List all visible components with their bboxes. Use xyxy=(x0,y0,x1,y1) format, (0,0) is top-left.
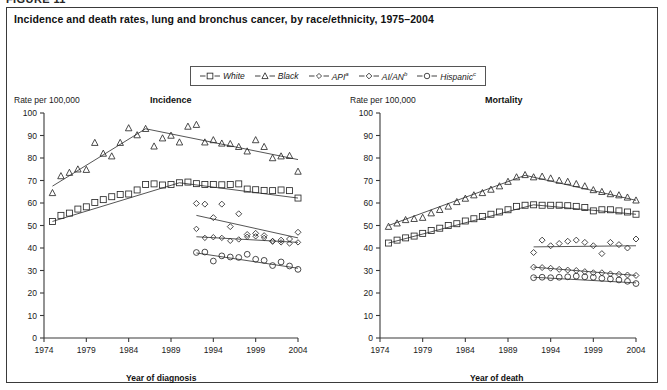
incidence-plot-area: 0102030405060708090100197419791984198919… xyxy=(8,95,338,360)
y-tick-label: 0 xyxy=(32,333,37,343)
data-point xyxy=(573,237,579,243)
data-point xyxy=(599,188,605,194)
data-point xyxy=(92,139,98,145)
legend-label: AI/ANb xyxy=(382,71,408,82)
x-tick-label: 1989 xyxy=(499,345,518,355)
data-point xyxy=(556,241,562,247)
data-point xyxy=(278,259,284,265)
y-tick-label: 30 xyxy=(364,266,374,276)
data-point xyxy=(556,274,562,280)
data-point xyxy=(66,210,72,216)
series-ai-an xyxy=(531,236,639,257)
data-point xyxy=(193,200,199,206)
legend-footnote-marker: c xyxy=(473,71,476,77)
legend-item-white[interactable]: White xyxy=(200,70,245,82)
legend-label: APIa xyxy=(332,71,349,82)
data-point xyxy=(590,187,596,193)
y-tick-label: 40 xyxy=(28,243,38,253)
data-point xyxy=(202,235,207,240)
trend-line xyxy=(52,129,298,186)
x-tick-label: 1979 xyxy=(77,345,96,355)
data-point xyxy=(227,182,233,188)
trend-line xyxy=(389,175,636,225)
data-point xyxy=(159,135,165,141)
data-point xyxy=(126,191,132,197)
legend-label: White xyxy=(223,71,245,81)
data-point xyxy=(193,181,199,187)
legend-label: Black xyxy=(278,71,299,81)
data-point xyxy=(219,253,225,259)
data-point xyxy=(582,239,588,245)
data-point xyxy=(252,137,258,143)
data-point xyxy=(227,254,233,260)
data-point xyxy=(168,132,174,138)
x-tick-label: 1999 xyxy=(246,345,265,355)
legend-item-ai-an[interactable]: AI/ANb xyxy=(359,70,408,82)
data-point xyxy=(75,206,81,212)
data-point xyxy=(531,250,537,256)
data-point xyxy=(270,263,276,269)
y-tick-label: 90 xyxy=(364,131,374,141)
mortality-x-axis-label: Year of death xyxy=(470,373,523,383)
data-point xyxy=(295,266,301,272)
circle-marker xyxy=(417,70,437,82)
data-point xyxy=(573,180,579,186)
data-point xyxy=(287,263,293,269)
legend-item-api[interactable]: APIa xyxy=(309,70,349,82)
series-api xyxy=(531,264,639,278)
data-point xyxy=(176,139,182,145)
data-point xyxy=(202,201,208,207)
figure-number: FIGURE 11 xyxy=(6,0,66,5)
y-tick-label: 0 xyxy=(368,333,373,343)
y-tick-label: 80 xyxy=(28,153,38,163)
data-point xyxy=(548,243,554,249)
figure-root: FIGURE 11 Incidence and death rates, lun… xyxy=(0,0,667,390)
data-point xyxy=(616,242,622,248)
series-white xyxy=(386,202,639,246)
series-api xyxy=(194,226,301,246)
legend-item-black[interactable]: Black xyxy=(255,70,299,82)
data-point xyxy=(109,194,115,200)
y-tick-label: 90 xyxy=(28,131,38,141)
data-point xyxy=(599,251,605,257)
x-tick-label: 1984 xyxy=(456,345,475,355)
y-tick-label: 50 xyxy=(28,221,38,231)
data-point xyxy=(83,204,89,210)
data-point xyxy=(419,214,425,220)
data-point xyxy=(270,188,276,194)
legend-item-hispanic[interactable]: Hispanicc xyxy=(417,70,476,82)
x-tick-label: 1999 xyxy=(584,345,603,355)
data-point xyxy=(295,168,301,174)
y-tick-label: 100 xyxy=(23,108,37,118)
data-point xyxy=(125,125,131,131)
y-tick-label: 100 xyxy=(359,108,373,118)
mortality-chart: Rate per 100,000 Mortality 0102030405060… xyxy=(340,95,665,390)
y-tick-label: 40 xyxy=(364,243,374,253)
data-point xyxy=(539,237,545,243)
data-point xyxy=(219,201,225,207)
y-tick-label: 60 xyxy=(28,198,38,208)
legend-label: Hispanicc xyxy=(440,71,476,82)
x-tick-label: 1974 xyxy=(35,345,54,355)
incidence-chart: Rate per 100,000 Incidence 0102030405060… xyxy=(8,95,338,390)
data-point xyxy=(219,182,225,188)
y-tick-label: 60 xyxy=(364,198,374,208)
data-point xyxy=(522,171,528,177)
trend-line xyxy=(196,253,298,268)
x-tick-label: 1974 xyxy=(371,345,390,355)
series-white xyxy=(49,179,301,224)
data-point xyxy=(194,226,199,231)
mortality-plot-area: 0102030405060708090100197419791984198919… xyxy=(340,95,665,360)
data-point xyxy=(565,178,571,184)
data-point xyxy=(633,236,639,242)
data-point xyxy=(590,243,596,249)
diamond-filled-marker xyxy=(309,70,329,82)
data-point xyxy=(269,155,275,161)
data-point xyxy=(633,281,639,287)
y-tick-label: 50 xyxy=(364,221,374,231)
legend-footnote-marker: a xyxy=(345,71,348,77)
data-point xyxy=(227,224,233,230)
x-tick-label: 1989 xyxy=(162,345,181,355)
data-point xyxy=(219,140,225,146)
data-point xyxy=(210,258,216,264)
